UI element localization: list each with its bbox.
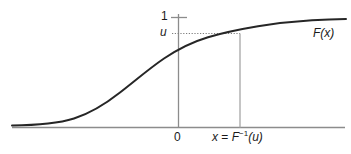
quantile-expression-label: x = F−1(u): [212, 131, 263, 143]
quantile-equals: =: [218, 130, 232, 144]
quantile-f: F: [232, 130, 239, 144]
quantile-exponent: −1: [239, 129, 248, 138]
origin-zero-label: 0: [174, 131, 181, 143]
y-axis-one-label: 1: [161, 10, 168, 22]
cdf-inverse-transform-figure: 1 u 0 F(x) x = F−1(u): [0, 0, 351, 154]
quantile-arg: (u): [248, 130, 263, 144]
u-level-label: u: [160, 26, 167, 38]
curve-fx-label: F(x): [313, 27, 334, 39]
